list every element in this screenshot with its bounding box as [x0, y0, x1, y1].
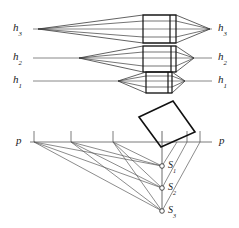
picture-plane-label-left: p [16, 135, 22, 146]
axis-label-right-h1: h1 [218, 74, 227, 88]
inner-ray-lower-h1 [118, 81, 185, 87]
station-point-label-s2: S2 [168, 182, 176, 194]
inner-ray-upper-h1 [118, 76, 185, 81]
figure-canvas: h3 h2 h1 h3 h2 h1 p p S1 S2 S3 [0, 0, 239, 228]
axis-label-right-h3: h3 [218, 22, 227, 36]
sight-line-s3-a [34, 142, 162, 211]
sight-line-s3-b [71, 142, 162, 211]
perspective-construction-group [30, 101, 212, 213]
picture-plane-label-right: p [219, 135, 225, 146]
ray-envelope-h2 [79, 46, 194, 72]
inner-ray-upper-h3 [38, 21, 210, 29]
optical-axis-group-h1 [33, 72, 212, 93]
sight-line-s3-c [113, 142, 162, 211]
axis-label-left-h1: h1 [13, 74, 22, 88]
optical-axis-group-h3 [33, 15, 212, 43]
diagram-svg [0, 0, 239, 228]
inner-ray-lower-h3 [38, 29, 210, 37]
station-point-label-s1: S1 [168, 160, 176, 172]
axis-label-left-h2: h2 [13, 51, 22, 65]
sight-line-s2-b [71, 142, 162, 188]
optical-axis-group-h2 [33, 46, 212, 72]
axis-label-right-h2: h2 [218, 51, 227, 65]
sight-line-s1-c [113, 142, 162, 166]
station-point-marker-s1 [160, 164, 165, 169]
ray-envelope-h1 [118, 72, 185, 93]
station-point-marker-s3 [160, 209, 165, 214]
station-point-marker-s2 [160, 186, 165, 191]
sight-line-s2-c [113, 142, 162, 188]
station-point-label-s3: S3 [168, 205, 176, 217]
axis-label-left-h3: h3 [13, 22, 22, 36]
